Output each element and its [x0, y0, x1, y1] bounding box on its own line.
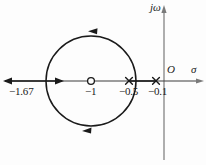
- real-axis-label: σ: [191, 64, 196, 75]
- locus-arrow-bottom: [82, 128, 92, 134]
- imaginary-axis-label: jω: [150, 2, 161, 13]
- imaginary-axis-arrowhead: [161, 5, 166, 13]
- tick-label-neg-1: −1: [85, 86, 96, 97]
- tick-label-neg-0-5: −0.5: [119, 86, 138, 97]
- real-axis-arrowhead: [196, 78, 204, 83]
- origin-label: O: [167, 64, 175, 75]
- root-locus-figure: −1.67 −1 −0.5 −0.1 O σ jω: [0, 0, 206, 165]
- locus-arrow-top: [88, 28, 98, 34]
- zero-marker-neg1: [88, 78, 95, 85]
- real-axis-arrow-left: [3, 77, 12, 84]
- figure-canvas: [0, 0, 206, 165]
- real-axis-arrow-right: [55, 77, 64, 84]
- tick-label-neg-0-1: −0.1: [148, 86, 167, 97]
- tick-label-neg-1-67: −1.67: [9, 86, 33, 97]
